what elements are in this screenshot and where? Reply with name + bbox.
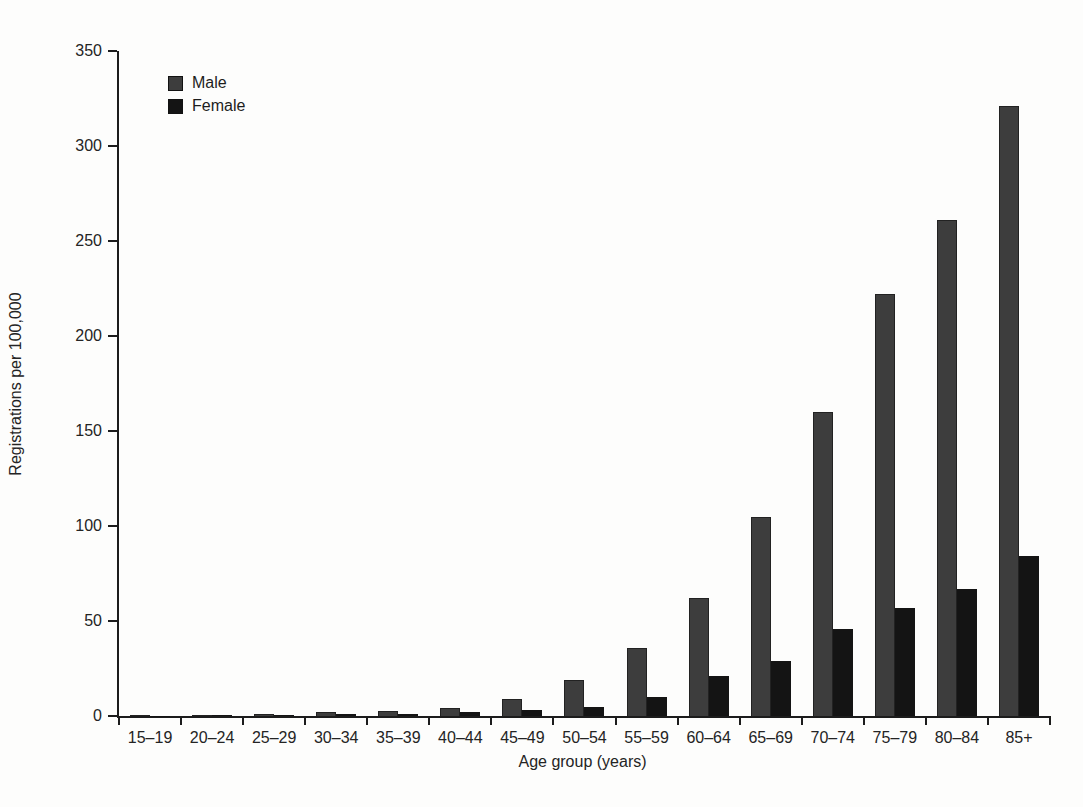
male-bar bbox=[999, 106, 1019, 716]
male-bar bbox=[689, 598, 709, 716]
x-category-label: 70–74 bbox=[802, 729, 864, 747]
x-tick bbox=[677, 716, 679, 725]
female-bar bbox=[522, 710, 542, 716]
female-bar bbox=[460, 712, 480, 716]
y-tick bbox=[108, 620, 117, 622]
female-bar bbox=[957, 589, 977, 716]
male-bar bbox=[378, 711, 398, 716]
bar-group bbox=[367, 51, 429, 716]
bar-group bbox=[243, 51, 305, 716]
x-tick bbox=[925, 716, 927, 725]
plot-area: Male Female 050100150200250300350 15–192… bbox=[117, 51, 1050, 718]
male-bar bbox=[813, 412, 833, 716]
x-tick bbox=[490, 716, 492, 725]
x-category-label: 80–84 bbox=[926, 729, 988, 747]
bar-group bbox=[678, 51, 740, 716]
y-tick-label: 50 bbox=[84, 613, 102, 629]
x-category-label: 60–64 bbox=[678, 729, 740, 747]
x-category-label: 50–54 bbox=[553, 729, 615, 747]
male-bar bbox=[254, 714, 274, 716]
y-tick bbox=[108, 50, 117, 52]
y-tick-label: 200 bbox=[75, 328, 102, 344]
bar-group bbox=[305, 51, 367, 716]
bar-group bbox=[491, 51, 553, 716]
x-tick bbox=[863, 716, 865, 725]
y-tick bbox=[108, 335, 117, 337]
y-tick bbox=[108, 715, 117, 717]
y-tick-label: 250 bbox=[75, 233, 102, 249]
y-tick bbox=[108, 525, 117, 527]
x-axis-title: Age group (years) bbox=[117, 753, 1048, 771]
x-category-label: 30–34 bbox=[305, 729, 367, 747]
x-category-label: 40–44 bbox=[429, 729, 491, 747]
x-category-label: 25–29 bbox=[243, 729, 305, 747]
y-tick-label: 0 bbox=[93, 708, 102, 724]
female-bar bbox=[584, 707, 604, 716]
female-bar bbox=[212, 715, 232, 716]
x-tick bbox=[987, 716, 989, 725]
x-category-label: 45–49 bbox=[491, 729, 553, 747]
male-bar bbox=[502, 699, 522, 716]
x-tick bbox=[1049, 716, 1051, 725]
chart-figure: Registrations per 100,000 Male Female 05… bbox=[0, 0, 1083, 807]
y-tick bbox=[108, 430, 117, 432]
y-axis-title: Registrations per 100,000 bbox=[7, 0, 25, 784]
x-category-label: 85+ bbox=[988, 729, 1050, 747]
male-bar bbox=[875, 294, 895, 716]
female-bar bbox=[709, 676, 729, 716]
female-bar bbox=[771, 661, 791, 716]
female-bar bbox=[647, 697, 667, 716]
female-bar bbox=[1019, 556, 1039, 716]
bar-group bbox=[181, 51, 243, 716]
bar-group bbox=[553, 51, 615, 716]
female-bar bbox=[398, 714, 418, 716]
bar-group bbox=[926, 51, 988, 716]
x-tick bbox=[304, 716, 306, 725]
x-tick bbox=[366, 716, 368, 725]
y-tick-label: 100 bbox=[75, 518, 102, 534]
y-tick bbox=[108, 240, 117, 242]
x-tick bbox=[118, 716, 120, 725]
male-bar bbox=[440, 708, 460, 716]
male-bar bbox=[130, 715, 150, 716]
male-bar bbox=[937, 220, 957, 716]
bar-group bbox=[988, 51, 1050, 716]
y-tick-label: 350 bbox=[75, 43, 102, 59]
female-bar bbox=[895, 608, 915, 716]
x-category-label: 65–69 bbox=[740, 729, 802, 747]
bar-group bbox=[864, 51, 926, 716]
x-tick bbox=[615, 716, 617, 725]
bar-group bbox=[740, 51, 802, 716]
bar-group bbox=[119, 51, 181, 716]
y-tick-label: 150 bbox=[75, 423, 102, 439]
x-tick bbox=[552, 716, 554, 725]
bar-group bbox=[429, 51, 491, 716]
x-category-label: 15–19 bbox=[119, 729, 181, 747]
female-bar bbox=[833, 629, 853, 716]
x-tick bbox=[180, 716, 182, 725]
male-bar bbox=[316, 712, 336, 716]
x-tick bbox=[801, 716, 803, 725]
x-category-label: 35–39 bbox=[367, 729, 429, 747]
female-bar bbox=[336, 714, 356, 716]
male-bar bbox=[627, 648, 647, 716]
female-bar bbox=[274, 715, 294, 716]
x-tick bbox=[428, 716, 430, 725]
x-category-label: 75–79 bbox=[864, 729, 926, 747]
bar-group bbox=[616, 51, 678, 716]
bar-group bbox=[802, 51, 864, 716]
x-category-label: 55–59 bbox=[616, 729, 678, 747]
male-bar bbox=[564, 680, 584, 716]
x-tick bbox=[242, 716, 244, 725]
y-tick bbox=[108, 145, 117, 147]
male-bar bbox=[192, 715, 212, 716]
x-tick bbox=[739, 716, 741, 725]
x-category-label: 20–24 bbox=[181, 729, 243, 747]
male-bar bbox=[751, 517, 771, 717]
y-tick-label: 300 bbox=[75, 138, 102, 154]
